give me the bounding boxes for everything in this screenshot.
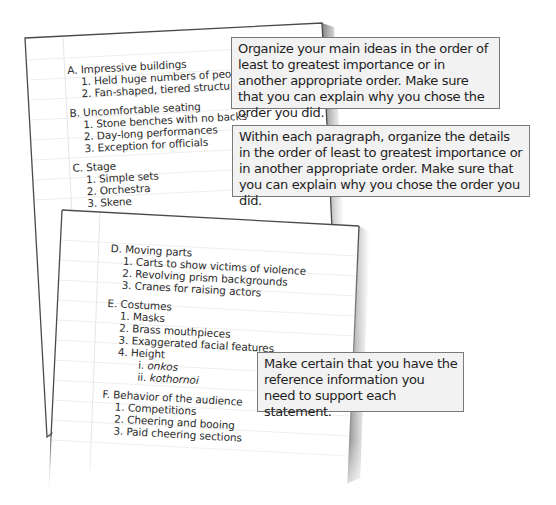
outline-illustration: A. Impressive buildings 1. Held huge num… [0, 0, 556, 505]
callout-paragraph-details: Within each paragraph, organize the deta… [232, 125, 530, 197]
callout-main-ideas: Organize your main ideas in the order of… [231, 37, 500, 109]
callout-reference-info: Make certain that you have the reference… [257, 352, 464, 412]
outline-section-b: B. Uncomfortable seating 1. Stone benche… [69, 98, 251, 155]
outline-section-d: D. Moving parts 1. Carts to show victims… [108, 242, 307, 301]
subitem-text: kothornoi [149, 371, 199, 386]
back-page-outline: A. Impressive buildings 1. Held huge num… [67, 55, 254, 210]
outline-section-c: C. Stage 1. Simple sets 2. Orchestra 3. … [72, 152, 254, 209]
subitem-number: i. [138, 359, 145, 371]
subitem-number: ii. [137, 371, 147, 383]
